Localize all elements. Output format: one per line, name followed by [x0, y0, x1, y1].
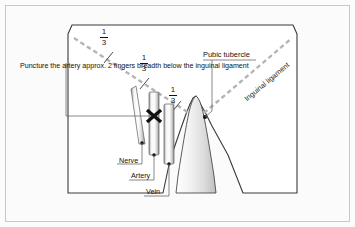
nerve-label: Nerve	[119, 157, 138, 165]
fraction-one-third-3: 1 3	[166, 86, 180, 105]
artery-label: Artery	[131, 172, 150, 180]
fraction-one-third-1: 1 3	[97, 28, 111, 47]
pubic-tubercle-label: Pubic tubercle	[203, 51, 250, 60]
fraction-denominator: 3	[97, 39, 111, 47]
vein-vessel	[164, 104, 174, 164]
diagram-canvas	[0, 0, 355, 227]
fraction-denominator: 3	[166, 97, 180, 105]
instruction-note: Puncture the artery approx. 2 fingers br…	[20, 62, 125, 72]
fraction-one-third-2: 1 3	[137, 54, 151, 73]
artery-vessel	[149, 92, 159, 155]
fraction-numerator: 1	[97, 28, 111, 36]
fraction-numerator: 1	[137, 54, 151, 62]
fraction-numerator: 1	[166, 86, 180, 94]
vein-label: Vein	[146, 188, 160, 196]
diagram-figure: Puncture the artery approx. 2 fingers br…	[0, 0, 355, 227]
fraction-denominator: 3	[137, 65, 151, 73]
